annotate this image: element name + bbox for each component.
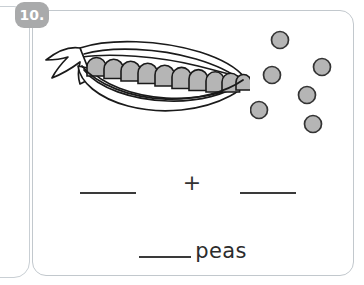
loose-peas-group bbox=[250, 22, 345, 142]
loose-pea bbox=[272, 32, 289, 49]
answer-row: peas bbox=[32, 228, 354, 262]
loose-pea bbox=[305, 116, 322, 133]
equation-row: + bbox=[32, 168, 354, 202]
answer-unit-label: peas bbox=[195, 241, 246, 262]
loose-pea bbox=[264, 67, 281, 84]
problem-number-badge: 10. bbox=[15, 2, 49, 28]
loose-pea bbox=[314, 59, 331, 76]
answer-blank[interactable] bbox=[139, 256, 191, 258]
pea-pod-illustration bbox=[40, 26, 250, 121]
loose-pea bbox=[251, 102, 268, 119]
plus-operator: + bbox=[177, 168, 207, 198]
first-addend-blank[interactable] bbox=[80, 192, 136, 194]
worksheet-page: 10. bbox=[0, 0, 364, 285]
loose-pea bbox=[299, 87, 316, 104]
adjacent-page-frame bbox=[0, 6, 30, 278]
second-addend-blank[interactable] bbox=[240, 192, 296, 194]
